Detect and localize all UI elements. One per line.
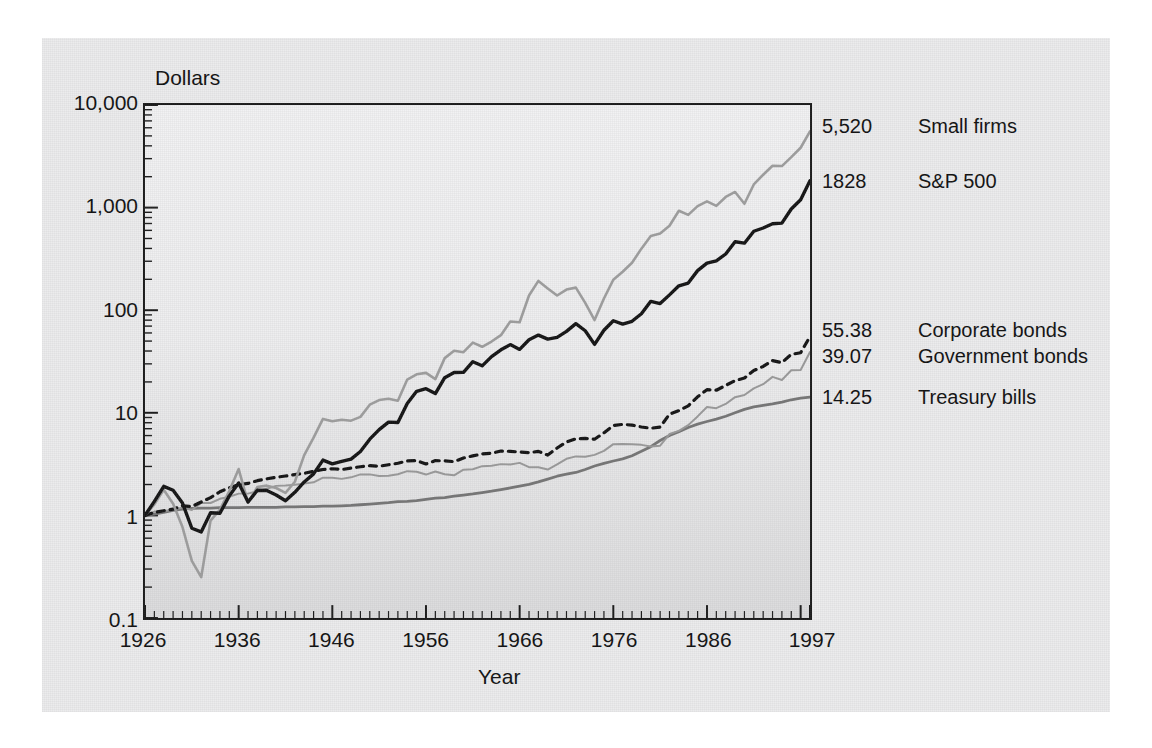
legend-item: 39.07Government bonds: [822, 345, 1110, 367]
x-tick-label: 1986: [685, 628, 732, 652]
y-tick-label: 1,000: [85, 195, 138, 216]
x-tick-label: 1966: [497, 628, 544, 652]
legend-label: Treasury bills: [918, 386, 1036, 408]
legend-label: S&P 500: [918, 170, 997, 192]
y-axis-title: Dollars: [155, 66, 220, 90]
legend-item: 1828S&P 500: [822, 170, 1110, 192]
legend-item: 5,520Small firms: [822, 115, 1110, 137]
plot-area: [143, 103, 812, 620]
legend-value: 39.07: [822, 345, 894, 367]
x-tick-label: 1997: [789, 628, 836, 652]
y-tick-label: 10: [115, 402, 138, 423]
x-axis-title: Year: [478, 665, 520, 689]
legend: 5,520Small firms1828S&P 50055.38Corporat…: [822, 38, 1110, 712]
legend-item: 14.25Treasury bills: [822, 386, 1110, 408]
legend-value: 1828: [822, 170, 894, 192]
x-tick-label: 1976: [591, 628, 638, 652]
y-tick-label: 10,000: [74, 92, 138, 113]
y-tick-label: 100: [103, 299, 138, 320]
series-line: [145, 131, 810, 577]
y-tick-label: 0.1: [109, 609, 138, 630]
legend-label: Corporate bonds: [918, 319, 1067, 341]
x-tick-label: 1946: [308, 628, 355, 652]
legend-item: 55.38Corporate bonds: [822, 319, 1110, 341]
series-line: [145, 181, 810, 532]
legend-label: Small firms: [918, 115, 1017, 137]
y-axis-tick-labels: 0.11101001,00010,000: [42, 38, 138, 712]
x-tick-label: 1956: [402, 628, 449, 652]
figure-panel: Dollars 0.11101001,00010,000 Year 5,520S…: [42, 38, 1110, 712]
legend-label: Government bonds: [918, 345, 1088, 367]
legend-value: 55.38: [822, 319, 894, 341]
series-canvas: [145, 105, 810, 618]
x-tick-label: 1936: [214, 628, 261, 652]
legend-value: 14.25: [822, 386, 894, 408]
x-tick-label: 1926: [120, 628, 167, 652]
y-tick-label: 1: [126, 506, 138, 527]
legend-value: 5,520: [822, 115, 894, 137]
